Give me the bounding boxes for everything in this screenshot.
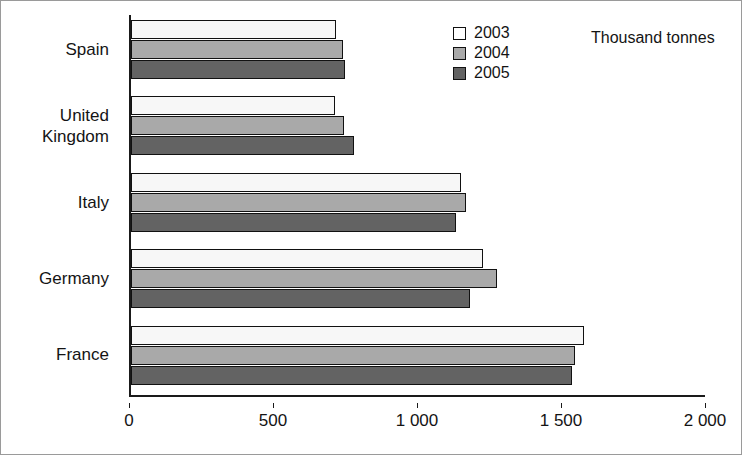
bar-2003 — [131, 20, 336, 39]
legend-swatch-2004 — [453, 47, 466, 60]
legend-label-2003: 2003 — [474, 24, 510, 42]
x-axis-tick-label: 1 000 — [396, 411, 439, 431]
x-axis-tick-labels: 05001 0001 5002 000 — [129, 403, 705, 437]
y-axis-label-line: Italy — [0, 192, 109, 213]
y-axis-category-labels: SpainUnitedKingdomItalyGermanyFrance — [1, 15, 119, 397]
legend-label-2004: 2004 — [474, 44, 510, 62]
x-axis-tick-label: 0 — [124, 411, 133, 431]
y-axis-label: UnitedKingdom — [0, 105, 109, 147]
bar-group — [131, 321, 705, 397]
bar-2005 — [131, 213, 456, 232]
y-axis-label: Spain — [0, 39, 109, 60]
x-axis-tick-label: 2 000 — [684, 411, 727, 431]
y-axis-label-line: United — [0, 105, 109, 126]
x-axis-tick — [273, 403, 274, 408]
legend-item-2003: 2003 — [453, 23, 543, 43]
legend: 2003 2004 2005 — [453, 23, 543, 83]
legend-swatch-2005 — [453, 67, 466, 80]
bar-2005 — [131, 366, 572, 385]
plot-area — [129, 15, 705, 397]
bar-2004 — [131, 40, 343, 59]
bar-2004 — [131, 116, 344, 135]
x-axis-tick — [417, 403, 418, 408]
x-axis-tick — [561, 403, 562, 408]
legend-item-2004: 2004 — [453, 43, 543, 63]
legend-item-2005: 2005 — [453, 63, 543, 83]
x-axis-tick-label: 1 500 — [540, 411, 583, 431]
bar-2004 — [131, 193, 466, 212]
legend-label-2005: 2005 — [474, 64, 510, 82]
unit-note: Thousand tonnes — [591, 29, 715, 47]
y-axis-label-line: Germany — [0, 268, 109, 289]
bar-2003 — [131, 326, 584, 345]
legend-swatch-2003 — [453, 27, 466, 40]
bar-2003 — [131, 173, 461, 192]
bar-group — [131, 168, 705, 244]
bar-group — [131, 244, 705, 320]
x-axis-tick — [705, 403, 706, 408]
y-axis-label-line: Spain — [0, 39, 109, 60]
bar-group — [131, 91, 705, 167]
bar-2005 — [131, 60, 345, 79]
x-axis-tick-label: 500 — [259, 411, 287, 431]
y-axis-label: Germany — [0, 268, 109, 289]
bar-group — [131, 15, 705, 91]
y-axis-label: Italy — [0, 192, 109, 213]
bar-2003 — [131, 96, 335, 115]
x-axis-tick — [129, 403, 130, 408]
bar-2003 — [131, 249, 483, 268]
bar-2004 — [131, 269, 497, 288]
bar-2004 — [131, 346, 575, 365]
chart-container: SpainUnitedKingdomItalyGermanyFrance 050… — [0, 0, 742, 455]
bar-2005 — [131, 289, 470, 308]
y-axis-label-line: France — [0, 344, 109, 365]
y-axis-label: France — [0, 344, 109, 365]
bar-2005 — [131, 136, 354, 155]
y-axis-label-line: Kingdom — [0, 126, 109, 147]
